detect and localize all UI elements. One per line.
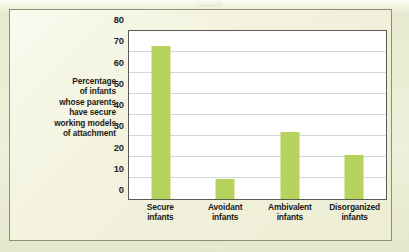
scan-artifact-top <box>196 0 222 7</box>
y-axis-tick-label: 20 <box>114 143 124 153</box>
y-axis-tick-label: 80 <box>114 15 124 25</box>
bars-group <box>129 31 386 199</box>
bar <box>344 155 363 199</box>
chart-screenshot: Percentage of infants whose parents have… <box>0 0 409 252</box>
y-axis-tick-label: 30 <box>114 121 124 131</box>
bar-slot <box>129 31 193 199</box>
bar <box>216 179 235 199</box>
plot-wrapper: 01020304050607080 <box>128 30 387 200</box>
y-axis-title-line: of attachment <box>20 128 116 138</box>
plot-area <box>128 30 387 200</box>
x-axis-tick-label: Avoidantinfants <box>193 202 258 222</box>
y-axis-title-line: have secure <box>20 107 116 117</box>
x-axis-tick-label-line: infants <box>322 212 387 222</box>
y-axis-title-line: Percentage <box>20 76 116 86</box>
bar <box>152 46 171 199</box>
y-axis-title-line: working models <box>20 118 116 128</box>
x-axis-tick-label-line: Disorganized <box>329 202 380 212</box>
figure-frame: Percentage of infants whose parents have… <box>9 9 392 241</box>
y-axis-tick-label: 10 <box>114 164 124 174</box>
x-axis-tick-label-line: infants <box>258 212 323 222</box>
x-axis-tick-label-line: Avoidant <box>208 202 242 212</box>
y-axis-tick-label: 0 <box>119 185 124 195</box>
bar-slot <box>322 31 386 199</box>
scan-artifact-bottom <box>196 246 222 252</box>
x-axis-tick-label-line: infants <box>128 212 193 222</box>
x-axis-tick-label-line: Ambivalent <box>268 202 312 212</box>
y-axis-tick-label: 50 <box>114 79 124 89</box>
x-axis-tick-labels: SecureinfantsAvoidantinfantsAmbivalentin… <box>128 202 387 222</box>
y-axis-title-line: whose parents <box>20 97 116 107</box>
y-axis-title-line: of infants <box>20 86 116 96</box>
x-axis-tick-label-line: Secure <box>147 202 174 212</box>
y-axis-tick-label: 60 <box>114 58 124 68</box>
x-axis-tick-label: Secureinfants <box>128 202 193 222</box>
bar-slot <box>258 31 322 199</box>
bar-slot <box>193 31 257 199</box>
bar <box>280 132 299 199</box>
x-axis-tick-label-line: infants <box>193 212 258 222</box>
y-axis-tick-label: 70 <box>114 36 124 46</box>
y-axis-title: Percentage of infants whose parents have… <box>20 76 116 138</box>
y-axis-tick-label: 40 <box>114 100 124 110</box>
x-axis-tick-label: Disorganizedinfants <box>322 202 387 222</box>
x-axis-tick-label: Ambivalentinfants <box>258 202 323 222</box>
